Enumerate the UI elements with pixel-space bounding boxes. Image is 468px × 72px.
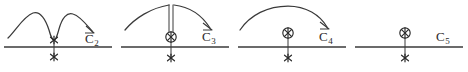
circled-x-marker-c4 — [283, 28, 293, 38]
panel-label-c4-letter: C — [319, 29, 328, 44]
star-marker-lower-c2 — [51, 53, 58, 61]
panel-c3: C3 — [117, 0, 234, 72]
figure-canvas: C2 — [0, 0, 468, 72]
panel-c5-graphic — [351, 0, 468, 72]
panel-c2-graphic — [0, 0, 117, 72]
star-marker-lower-c5 — [402, 54, 409, 62]
panel-label-c2: C2 — [85, 32, 99, 48]
panel-label-c5-subscript: 5 — [445, 36, 450, 46]
panel-label-c3: C3 — [202, 30, 216, 46]
star-marker-upper-c2 — [51, 36, 58, 44]
panel-label-c5-letter: C — [436, 29, 445, 44]
panel-label-c2-letter: C — [85, 31, 94, 46]
panel-label-c5: C5 — [436, 30, 450, 46]
curve-c3-left — [125, 5, 169, 30]
panel-c4-graphic — [234, 0, 351, 72]
circled-x-marker-c5 — [400, 28, 410, 38]
circled-x-marker-c3 — [166, 32, 176, 42]
panel-c5: C5 — [351, 0, 468, 72]
star-marker-lower-c4 — [285, 54, 292, 62]
panel-c2: C2 — [0, 0, 117, 72]
panel-label-c3-letter: C — [202, 29, 211, 44]
curve-c4 — [240, 6, 327, 30]
panel-c4: C4 — [234, 0, 351, 72]
star-marker-lower-c3 — [168, 54, 175, 62]
curve-c2 — [8, 13, 92, 40]
panel-label-c4-subscript: 4 — [328, 36, 333, 46]
panel-label-c2-subscript: 2 — [94, 38, 99, 48]
panel-label-c3-subscript: 3 — [211, 36, 216, 46]
panel-c3-graphic — [117, 0, 234, 72]
panel-label-c4: C4 — [319, 30, 333, 46]
